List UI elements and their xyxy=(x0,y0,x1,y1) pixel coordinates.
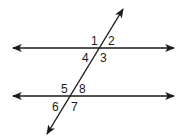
angle-label-5: 5 xyxy=(61,82,68,96)
angle-label-3: 3 xyxy=(100,51,107,65)
angle-label-6: 6 xyxy=(52,100,59,114)
angle-label-7: 7 xyxy=(71,100,78,114)
angle-label-2: 2 xyxy=(108,34,115,48)
angle-label-1: 1 xyxy=(91,34,98,48)
angle-label-4: 4 xyxy=(82,51,89,65)
angle-label-8: 8 xyxy=(79,82,86,96)
parallel-lines-transversal-diagram: 1 2 3 4 5 8 6 7 xyxy=(0,0,184,138)
transversal-line xyxy=(47,9,123,134)
